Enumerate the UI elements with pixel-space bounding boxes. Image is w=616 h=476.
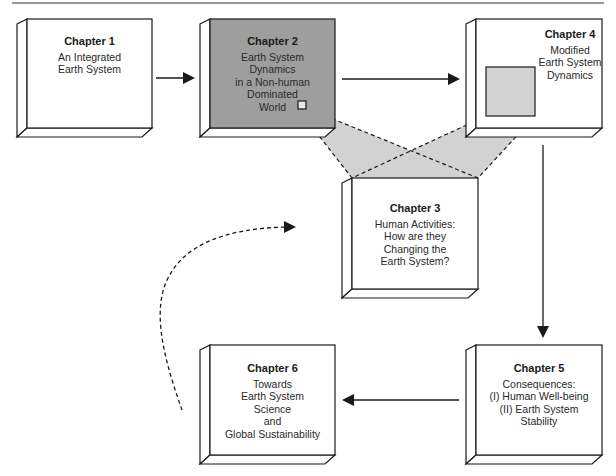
chapter-text-line: (II) Earth System xyxy=(476,403,602,416)
chapter-text-line: Changing the xyxy=(352,243,478,256)
chapter-text-line: How are they xyxy=(352,230,478,243)
chapter-text-line: in a Non-human xyxy=(210,76,335,89)
chapter-1-label: Chapter 1 An Integrated Earth System xyxy=(27,35,152,76)
chapter-title: Chapter 4 xyxy=(530,28,610,41)
chapter-text-line: Earth System? xyxy=(352,255,478,268)
chapter-text-line: Dynamics xyxy=(530,69,610,82)
chapter-text-line: Earth System xyxy=(530,56,610,69)
chapter-text-line: (I) Human Well-being xyxy=(476,390,602,403)
chapter-text-line: and xyxy=(210,415,335,428)
detail-square-icon xyxy=(486,67,535,116)
chapter-4-label: Chapter 4 Modified Earth System Dynamics xyxy=(530,28,610,81)
chapter-text-line: Earth System xyxy=(27,63,152,76)
chapter-2-label: Chapter 2 Earth System Dynamics in a Non… xyxy=(210,35,335,113)
dashed-arrowhead-icon xyxy=(284,221,296,233)
chapter-text-line: Dynamics xyxy=(210,63,335,76)
chapter-text-line: World xyxy=(210,101,335,114)
chapter-title: Chapter 3 xyxy=(352,202,478,215)
chapter-title: Chapter 5 xyxy=(476,362,602,375)
chapter-6-label: Chapter 6 Towards Earth System Science a… xyxy=(210,362,335,440)
chapter-text-line: Towards xyxy=(210,378,335,391)
chapter-text-line: Global Sustainability xyxy=(210,428,335,441)
chapter-5-label: Chapter 5 Consequences: (I) Human Well-b… xyxy=(476,362,602,428)
chapter-3-label: Chapter 3 Human Activities: How are they… xyxy=(352,202,478,268)
chapter-text-line: Dominated xyxy=(210,88,335,101)
chapter-text-line: Earth System xyxy=(210,390,335,403)
chapter-title: Chapter 2 xyxy=(210,35,335,48)
chapter-text-line: Stability xyxy=(476,415,602,428)
chapter-text-line: Science xyxy=(210,403,335,416)
chapter-title: Chapter 6 xyxy=(210,362,335,375)
chapter-text-line: An Integrated xyxy=(27,51,152,64)
chapter-text-line: Consequences: xyxy=(476,378,602,391)
chapter-title: Chapter 1 xyxy=(27,35,152,48)
chapter-text-line: Modified xyxy=(530,44,610,57)
chapter-text-line: Earth System xyxy=(210,51,335,64)
chapter-text-line: Human Activities: xyxy=(352,218,478,231)
